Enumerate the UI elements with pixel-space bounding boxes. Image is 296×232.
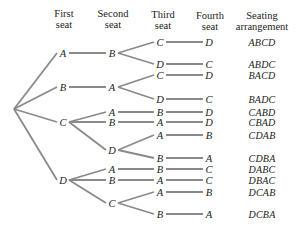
tree-node: D [107, 145, 117, 156]
arrangement-label: BACD [249, 70, 276, 81]
arrangement-label: DCBA [249, 209, 276, 220]
header-fourth-seat: Fourth seat [192, 10, 228, 32]
tree-node: A [205, 153, 213, 164]
tree-node: A [156, 130, 164, 141]
tree-edge [69, 112, 106, 122]
tree-node: B [108, 117, 116, 128]
tree-edge [118, 150, 154, 158]
arrangement-label: ABDC [249, 59, 276, 70]
tree-node: B [59, 82, 67, 93]
tree-node: B [108, 48, 116, 59]
header-line: seat [146, 20, 180, 31]
tree-edge [118, 135, 154, 150]
header-line: Second [93, 8, 133, 19]
tree-edge [118, 42, 154, 53]
tree-node: C [107, 198, 116, 209]
tree-edge [69, 169, 106, 180]
tree-node: D [58, 175, 68, 186]
tree-node: A [156, 187, 164, 198]
header-line: Seating [232, 10, 292, 21]
arrangement-label: BADC [249, 94, 276, 105]
header-line: First [47, 8, 81, 19]
tree-edge [118, 75, 154, 87]
arrangement-label: ABCD [249, 37, 276, 48]
tree-edge [118, 87, 154, 99]
arrangement-label: CBAD [249, 117, 276, 128]
tree-node: C [155, 70, 164, 81]
tree-node: D [204, 70, 214, 81]
tree-node: D [155, 94, 165, 105]
header-line: Fourth [192, 10, 228, 21]
tree-node: B [205, 187, 213, 198]
header-third-seat: Third seat [146, 9, 180, 31]
tree-node: B [156, 153, 164, 164]
header-line: Third [146, 9, 180, 20]
tree-edge [118, 192, 154, 203]
header-line: arrangement [232, 21, 292, 32]
tree-node: A [108, 82, 116, 93]
tree-node: A [205, 209, 213, 220]
tree-edge [14, 87, 57, 109]
arrangement-label: DCAB [249, 187, 276, 198]
tree-node: B [156, 164, 164, 175]
header-line: seat [93, 19, 133, 30]
tree-node: C [58, 117, 67, 128]
header-line: seat [192, 21, 228, 32]
arrangement-label: DBAC [249, 175, 276, 186]
tree-node: C [204, 175, 213, 186]
tree-edge [118, 203, 154, 214]
tree-node: B [156, 209, 164, 220]
tree-node: D [155, 59, 165, 70]
tree-node: C [155, 37, 164, 48]
tree-node: B [205, 130, 213, 141]
header-second-seat: Second seat [93, 8, 133, 30]
tree-edge [69, 180, 106, 203]
tree-node: B [108, 175, 116, 186]
tree-node: C [204, 59, 213, 70]
tree-node: A [59, 48, 67, 59]
arrangement-label: DABC [249, 164, 276, 175]
tree-node: D [204, 37, 214, 48]
header-line: seat [47, 19, 81, 30]
tree-node: A [156, 175, 164, 186]
tree-node: C [204, 164, 213, 175]
header-first-seat: First seat [47, 8, 81, 30]
tree-node: D [204, 117, 214, 128]
tree-node: A [108, 164, 116, 175]
tree-node: C [204, 94, 213, 105]
tree-edge [14, 53, 57, 109]
tree-edge [69, 122, 106, 150]
tree-edge [118, 53, 154, 64]
arrangement-label: CDBA [249, 153, 276, 164]
arrangement-label: CDAB [249, 130, 276, 141]
header-seating-arrangement: Seating arrangement [232, 10, 292, 32]
tree-node: A [156, 117, 164, 128]
